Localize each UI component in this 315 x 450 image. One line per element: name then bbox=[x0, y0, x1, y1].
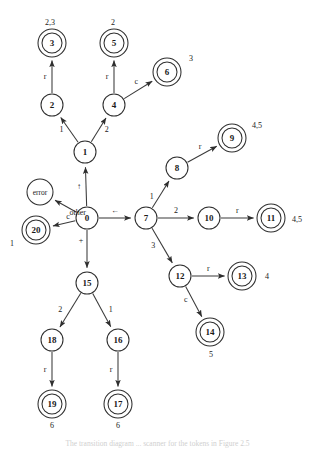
node-label-2: 2 bbox=[50, 100, 55, 110]
node-annotation-9: 4,5 bbox=[252, 121, 262, 130]
edge-label-2-3: r bbox=[44, 72, 47, 81]
node-label-15: 15 bbox=[83, 278, 93, 288]
node-label-1: 1 bbox=[83, 147, 88, 157]
node-annotation-14: 5 bbox=[209, 350, 213, 359]
node-label-error: error bbox=[33, 188, 48, 197]
edge-label-0-1: ↑ bbox=[77, 182, 81, 191]
node-label-5: 5 bbox=[112, 38, 117, 48]
node-6[interactable]: 6 bbox=[153, 58, 181, 86]
node-annotation-6: 3 bbox=[189, 54, 193, 63]
edge-label-18-19: r bbox=[44, 365, 47, 374]
node-label-8: 8 bbox=[175, 163, 180, 173]
node-error[interactable]: error bbox=[27, 179, 53, 205]
node-label-19: 19 bbox=[48, 399, 58, 409]
node-18[interactable]: 18 bbox=[41, 329, 63, 351]
edge-label-0-error: other bbox=[70, 208, 87, 217]
node-label-6: 6 bbox=[165, 67, 170, 77]
edge-label-10-11: r bbox=[236, 206, 239, 215]
edge-label-1-2: 1 bbox=[59, 125, 63, 134]
edge-0-to-20 bbox=[53, 221, 75, 226]
edge-label-16-17: r bbox=[110, 365, 113, 374]
node-label-7: 7 bbox=[144, 213, 149, 223]
edge-7-to-8 bbox=[152, 181, 169, 208]
edge-label-4-6: c bbox=[134, 77, 138, 86]
node-annotation-13: 4 bbox=[265, 272, 269, 281]
node-label-13: 13 bbox=[238, 271, 248, 281]
node-3[interactable]: 3 bbox=[38, 29, 66, 57]
node-19[interactable]: 19 bbox=[38, 390, 66, 418]
node-annotation-17: 6 bbox=[116, 421, 120, 430]
node-annotation-11: 4,5 bbox=[292, 215, 302, 224]
diagram-canvas: error35624918071011201213151418161917 rr… bbox=[0, 0, 315, 450]
node-label-17: 17 bbox=[114, 399, 124, 409]
edge-label-8-9: r bbox=[199, 142, 202, 151]
node-7[interactable]: 7 bbox=[135, 207, 157, 229]
node-label-10: 10 bbox=[205, 213, 215, 223]
edge-label-0-7: ← bbox=[111, 206, 119, 215]
node-1[interactable]: 1 bbox=[74, 141, 96, 163]
node-annotation-5: 2 bbox=[111, 18, 115, 27]
figure-caption: The transition diagram ... scanner for t… bbox=[0, 439, 315, 448]
node-label-18: 18 bbox=[48, 335, 58, 345]
node-label-4: 4 bbox=[112, 100, 117, 110]
edge-label-7-10: 2 bbox=[174, 206, 178, 215]
node-2[interactable]: 2 bbox=[41, 94, 63, 116]
edge-12-to-14 bbox=[186, 287, 202, 317]
edge-label-15-18: 2 bbox=[58, 305, 62, 314]
edge-label-4-5: r bbox=[106, 72, 109, 81]
state-diagram: error35624918071011201213151418161917 rr… bbox=[0, 0, 315, 450]
node-14[interactable]: 14 bbox=[196, 318, 224, 346]
node-13[interactable]: 13 bbox=[228, 262, 256, 290]
edge-label-0-15: + bbox=[79, 236, 84, 245]
edge-label-1-4: 2 bbox=[105, 125, 109, 134]
node-15[interactable]: 15 bbox=[76, 272, 98, 294]
edge-0-to-1 bbox=[85, 167, 86, 206]
edge-15-to-18 bbox=[60, 293, 81, 327]
node-label-20: 20 bbox=[32, 225, 42, 235]
node-label-16: 16 bbox=[114, 335, 124, 345]
edge-4-to-6 bbox=[124, 81, 152, 98]
edge-label-7-8: 1 bbox=[150, 192, 154, 201]
node-label-14: 14 bbox=[206, 327, 216, 337]
node-label-3: 3 bbox=[50, 38, 55, 48]
edge-label-12-13: r bbox=[207, 264, 210, 273]
node-annotation-20: 1 bbox=[10, 239, 14, 248]
node-4[interactable]: 4 bbox=[103, 94, 125, 116]
node-label-12: 12 bbox=[176, 271, 186, 281]
node-9[interactable]: 9 bbox=[218, 124, 246, 152]
edge-label-12-14: c bbox=[184, 295, 188, 304]
node-16[interactable]: 16 bbox=[107, 329, 129, 351]
node-20[interactable]: 20 bbox=[22, 216, 50, 244]
node-12[interactable]: 12 bbox=[169, 265, 191, 287]
node-10[interactable]: 10 bbox=[198, 207, 220, 229]
edge-label-15-16: 1 bbox=[109, 305, 113, 314]
edge-label-7-12: 3 bbox=[151, 241, 155, 250]
node-annotation-19: 6 bbox=[50, 421, 54, 430]
node-17[interactable]: 17 bbox=[104, 390, 132, 418]
node-8[interactable]: 8 bbox=[166, 157, 188, 179]
node-annotation-3: 2,3 bbox=[45, 18, 55, 27]
edge-8-to-9 bbox=[188, 146, 217, 162]
node-11[interactable]: 11 bbox=[257, 204, 285, 232]
node-label-11: 11 bbox=[267, 213, 276, 223]
edge-label-0-20: c bbox=[66, 212, 70, 221]
node-label-9: 9 bbox=[230, 133, 235, 143]
node-5[interactable]: 5 bbox=[100, 29, 128, 57]
